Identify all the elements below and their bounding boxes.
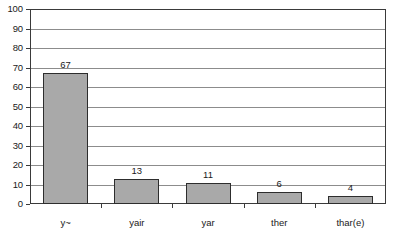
x-axis: y~yairyartherthar(e) (30, 204, 386, 242)
bar-value-label: 6 (277, 179, 282, 189)
y-tick-label: 40 (13, 121, 23, 131)
y-axis: 0102030405060708090100 (0, 0, 30, 242)
x-tick-label: yair (129, 218, 144, 228)
x-tick-mark (172, 204, 173, 208)
x-tick-mark (315, 204, 316, 208)
bar-value-label: 11 (203, 170, 213, 180)
x-tick-mark (101, 204, 102, 208)
x-tick-label: ther (271, 218, 287, 228)
bar (114, 179, 159, 204)
x-tick-mark (244, 204, 245, 208)
y-tick-label: 50 (13, 102, 23, 112)
y-tick-label: 30 (13, 141, 23, 151)
x-tick-label: thar(e) (336, 218, 364, 228)
y-tick-label: 0 (18, 199, 23, 209)
bar (43, 73, 88, 204)
y-tick-label: 60 (13, 82, 23, 92)
y-tick-label: 70 (13, 63, 23, 73)
y-tick-label: 10 (13, 180, 23, 190)
bar-value-label: 67 (60, 60, 71, 70)
x-tick-label: y~ (60, 218, 70, 228)
bar (186, 183, 231, 204)
y-tick-label: 20 (13, 160, 23, 170)
y-tick-label: 80 (13, 43, 23, 53)
bar (257, 192, 302, 204)
bars-layer: 67131164 (30, 9, 386, 204)
bar (328, 196, 373, 204)
y-tick-label: 90 (13, 24, 23, 34)
bar-chart: 0102030405060708090100 67131164 y~yairya… (0, 0, 396, 242)
bar-value-label: 13 (132, 166, 143, 176)
y-tick-label: 100 (7, 4, 23, 14)
x-tick-label: yar (201, 218, 214, 228)
bar-value-label: 4 (348, 183, 353, 193)
